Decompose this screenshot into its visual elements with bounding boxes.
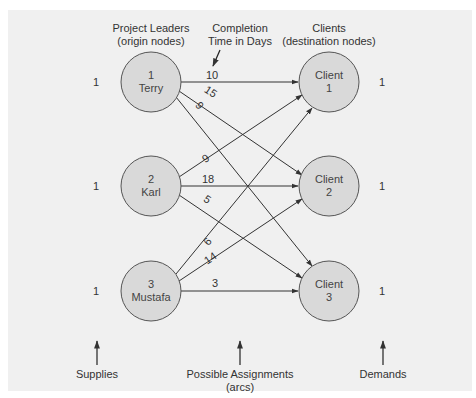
svg-text:2: 2: [148, 173, 154, 185]
arc-karl-client3: [179, 195, 302, 278]
svg-text:1: 1: [326, 82, 332, 94]
arc-label-terry-client2: 15: [202, 83, 219, 100]
time-pointer-arrow: [213, 50, 220, 66]
svg-text:Terry: Terry: [139, 82, 164, 94]
arc-label-mustafa-client1: 6: [201, 235, 214, 247]
arcs: [176, 82, 312, 291]
origin-node-mustafa: 3 Mustafa: [121, 261, 181, 321]
arc-label-karl-client2: 18: [202, 173, 214, 185]
svg-text:3: 3: [148, 278, 154, 290]
time-header-line1: Completion: [212, 22, 268, 34]
demand-client1: 1: [379, 76, 385, 88]
svg-text:2: 2: [326, 186, 332, 198]
origin-header-line1: Project Leaders: [112, 22, 190, 34]
arc-mustafa-client1: [176, 108, 312, 274]
svg-text:Client: Client: [315, 69, 343, 81]
arc-label-karl-client3: 5: [202, 193, 214, 206]
svg-text:Client: Client: [315, 173, 343, 185]
assignments-label-line2: (arcs): [226, 381, 254, 393]
svg-text:1: 1: [148, 69, 154, 81]
demand-client2: 1: [379, 180, 385, 192]
dest-header-line1: Clients: [312, 22, 346, 34]
arc-label-mustafa-client3: 3: [212, 277, 218, 289]
arc-mustafa-client2: [179, 199, 302, 281]
supply-karl: 1: [93, 180, 99, 192]
assignments-label-line1: Possible Assignments: [187, 368, 294, 380]
arc-terry-client3: [176, 97, 312, 266]
supplies-label: Supplies: [76, 368, 119, 380]
svg-text:Karl: Karl: [141, 186, 161, 198]
origin-node-karl: 2 Karl: [121, 156, 181, 216]
svg-text:Client: Client: [315, 278, 343, 290]
svg-text:Mustafa: Mustafa: [131, 291, 171, 303]
svg-text:3: 3: [326, 291, 332, 303]
dest-header-line2: (destination nodes): [282, 35, 376, 47]
origin-node-terry: 1 Terry: [121, 52, 181, 112]
dest-node-client2: Client 2: [299, 156, 359, 216]
arc-label-terry-client1: 10: [206, 69, 218, 81]
supply-mustafa: 1: [93, 285, 99, 297]
origin-header-line2: (origin nodes): [117, 35, 184, 47]
demands-label: Demands: [359, 368, 407, 380]
time-header-line2: Time in Days: [208, 35, 272, 47]
dest-node-client3: Client 3: [299, 261, 359, 321]
assignment-network-diagram: Project Leaders (origin nodes) Completio…: [0, 0, 476, 398]
demand-client3: 1: [379, 285, 385, 297]
supply-terry: 1: [93, 76, 99, 88]
arc-label-terry-client3: 9: [193, 99, 206, 111]
dest-node-client1: Client 1: [299, 52, 359, 112]
arc-label-karl-client1: 9: [200, 151, 212, 164]
